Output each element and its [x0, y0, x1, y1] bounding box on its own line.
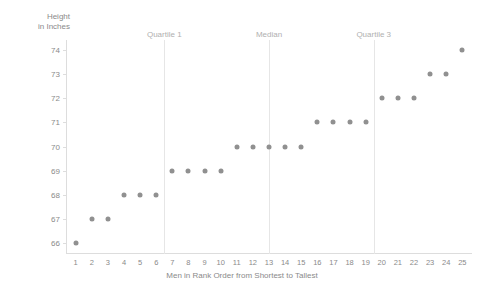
y-axis-title: Height in Inches: [18, 12, 70, 32]
y-tick-mark: [63, 147, 66, 148]
data-point: [234, 144, 239, 149]
data-point: [267, 144, 272, 149]
data-point: [218, 168, 223, 173]
data-point: [250, 144, 255, 149]
y-tick-mark: [63, 74, 66, 75]
data-point: [460, 47, 465, 52]
y-tick-mark: [63, 195, 66, 196]
y-tick-mark: [63, 50, 66, 51]
x-tick-label: 1: [68, 258, 84, 267]
y-tick-mark: [63, 219, 66, 220]
y-axis-line: [66, 40, 67, 254]
data-point: [186, 168, 191, 173]
x-axis-title: Men in Rank Order from Shortest to Talle…: [0, 271, 484, 280]
data-point: [444, 71, 449, 76]
x-tick-label: 12: [245, 258, 261, 267]
data-point: [395, 96, 400, 101]
x-tick-label: 5: [132, 258, 148, 267]
data-point: [138, 192, 143, 197]
y-tick-label: 74: [20, 45, 60, 54]
x-tick-label: 10: [213, 258, 229, 267]
y-tick-label: 67: [20, 215, 60, 224]
data-point: [105, 217, 110, 222]
scatter-chart: Height in Inches 666768697071727374 Quar…: [0, 0, 484, 291]
x-tick-label: 6: [148, 258, 164, 267]
y-tick-mark: [63, 122, 66, 123]
data-point: [412, 96, 417, 101]
y-tick-label: 70: [20, 142, 60, 151]
x-tick-label: 25: [454, 258, 470, 267]
x-tick-label: 9: [197, 258, 213, 267]
y-tick-label: 66: [20, 239, 60, 248]
x-tick-label: 22: [406, 258, 422, 267]
y-tick-label: 68: [20, 190, 60, 199]
x-tick-label: 7: [164, 258, 180, 267]
x-tick-label: 17: [325, 258, 341, 267]
y-tick-mark: [63, 98, 66, 99]
x-tick-label: 13: [261, 258, 277, 267]
data-point: [170, 168, 175, 173]
data-point: [428, 71, 433, 76]
y-tick-label: 72: [20, 94, 60, 103]
x-tick-label: 24: [438, 258, 454, 267]
data-point: [379, 96, 384, 101]
x-tick-label: 11: [229, 258, 245, 267]
x-tick-label: 19: [358, 258, 374, 267]
y-tick-label: 71: [20, 118, 60, 127]
y-tick-label: 69: [20, 166, 60, 175]
x-tick-label: 18: [342, 258, 358, 267]
x-tick-label: 14: [277, 258, 293, 267]
x-tick-label: 23: [422, 258, 438, 267]
x-tick-label: 3: [100, 258, 116, 267]
y-tick-mark: [63, 171, 66, 172]
data-point: [331, 120, 336, 125]
x-tick-label: 16: [309, 258, 325, 267]
y-tick-mark: [63, 243, 66, 244]
x-tick-label: 15: [293, 258, 309, 267]
data-point: [202, 168, 207, 173]
data-point: [315, 120, 320, 125]
x-tick-label: 8: [180, 258, 196, 267]
data-point: [89, 217, 94, 222]
data-point: [347, 120, 352, 125]
x-tick-label: 20: [374, 258, 390, 267]
data-point: [73, 241, 78, 246]
data-point: [122, 192, 127, 197]
x-tick-label: 2: [84, 258, 100, 267]
reference-line-label: Quartile 1: [147, 30, 182, 39]
data-point: [363, 120, 368, 125]
reference-line-label: Median: [256, 30, 282, 39]
reference-line: [164, 40, 165, 254]
reference-line-label: Quartile 3: [356, 30, 391, 39]
reference-line: [374, 40, 375, 254]
x-tick-label: 21: [390, 258, 406, 267]
data-point: [299, 144, 304, 149]
x-tick-label: 4: [116, 258, 132, 267]
data-point: [154, 192, 159, 197]
data-point: [283, 144, 288, 149]
y-tick-label: 73: [20, 69, 60, 78]
